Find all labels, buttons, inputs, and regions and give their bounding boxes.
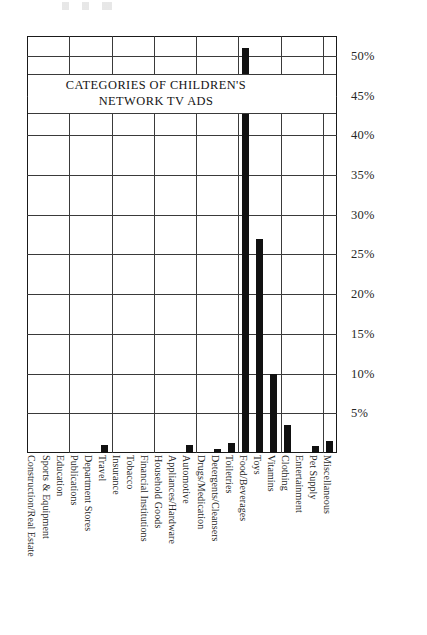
- y-tick-label: 20%: [351, 287, 375, 302]
- x-tick-label: Travel: [97, 455, 108, 481]
- bar[interactable]: [228, 443, 235, 453]
- bar[interactable]: [101, 445, 108, 453]
- y-tick-label: 30%: [351, 208, 375, 223]
- x-tick-label: Publications: [69, 455, 80, 506]
- x-tick-label: Toiletries: [224, 455, 235, 493]
- bar[interactable]: [326, 441, 333, 453]
- x-tick-label: Household Goods: [153, 455, 164, 528]
- x-tick-label: Construction/Real Estate: [26, 455, 37, 557]
- y-tick-label: 5%: [351, 406, 368, 421]
- bar[interactable]: [270, 374, 277, 453]
- x-tick-label: Tobacco: [125, 455, 136, 489]
- x-tick-label: Detergents/Cleansers: [210, 455, 221, 542]
- x-tick-label: Miscellaneous: [322, 455, 333, 514]
- y-tick-label: 50%: [351, 49, 375, 64]
- x-tick-label: Food/Beverages: [238, 455, 249, 521]
- y-tick-label: 40%: [351, 128, 375, 143]
- y-tick-label: 15%: [351, 327, 375, 342]
- x-tick-label: Financial Institutions: [139, 455, 150, 542]
- bar[interactable]: [312, 446, 319, 453]
- y-axis-labels: 5%10%15%20%25%30%35%40%45%50%: [345, 0, 427, 635]
- x-tick-label: Clothing: [280, 455, 291, 491]
- chart-title-box: CATEGORIES OF CHILDREN'S NETWORK TV ADS: [28, 74, 336, 114]
- x-tick-label: Entertainment: [294, 455, 305, 513]
- bar-chart: CATEGORIES OF CHILDREN'S NETWORK TV ADS: [27, 36, 337, 453]
- chart-title: CATEGORIES OF CHILDREN'S NETWORK TV ADS: [66, 78, 298, 109]
- x-tick-label: Vitamins: [266, 455, 277, 492]
- x-tick-label: Drugs/Medication: [196, 455, 207, 529]
- x-tick-label: Appliances/Hardware: [167, 455, 178, 544]
- x-tick-label: Sports & Equipment: [41, 455, 52, 539]
- scan-artifact: [62, 2, 122, 10]
- x-tick-label: Pet Supply: [308, 455, 319, 500]
- bar[interactable]: [256, 239, 263, 453]
- bar[interactable]: [186, 445, 193, 453]
- y-tick-label: 45%: [351, 89, 375, 104]
- bar[interactable]: [284, 425, 291, 453]
- x-tick-label: Insurance: [111, 455, 122, 495]
- y-tick-label: 25%: [351, 247, 375, 262]
- y-tick-label: 35%: [351, 168, 375, 183]
- y-tick-label: 10%: [351, 367, 375, 382]
- x-tick-label: Department Stores: [83, 455, 94, 531]
- x-tick-label: Education: [55, 455, 66, 496]
- x-tick-label: Toys: [252, 455, 263, 475]
- bar[interactable]: [214, 449, 221, 453]
- x-tick-label: Automotive: [181, 455, 192, 504]
- x-axis-labels: Construction/Real EstateSports & Equipme…: [27, 455, 337, 635]
